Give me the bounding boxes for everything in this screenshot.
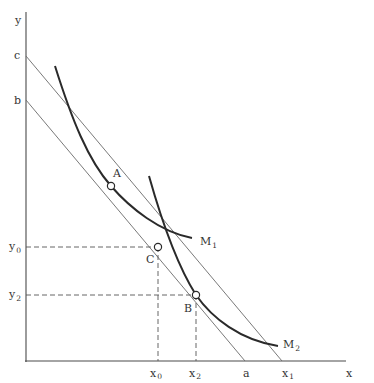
point-A: [107, 182, 114, 189]
curve-M1: [55, 66, 192, 238]
label-b: b: [14, 94, 21, 107]
point-C: [154, 243, 161, 250]
label-c: c: [14, 49, 20, 62]
label-a: a: [243, 367, 250, 380]
label-x0: x0: [150, 367, 162, 381]
x-axis-label: x: [346, 367, 353, 380]
guide-lines: [26, 247, 196, 361]
label-M1: M1: [200, 235, 217, 250]
label-point-C: C: [146, 253, 154, 266]
curve-M2: [149, 176, 278, 346]
label-x1: x1: [282, 367, 294, 381]
label-M2: M2: [283, 338, 300, 353]
label-point-B: B: [184, 302, 192, 315]
indifference-curves: [55, 66, 278, 346]
diagram-canvas: y x c b y0 y2 x0 x2 a x1 A C B M1 M2: [0, 0, 374, 383]
budget-line-b-a: [26, 100, 245, 361]
point-B: [192, 291, 199, 298]
label-y0: y0: [8, 240, 21, 255]
y-axis-label: y: [14, 14, 22, 27]
label-point-A: A: [112, 167, 122, 180]
label-y2: y2: [8, 288, 21, 303]
budget-lines: [26, 56, 282, 361]
points: [107, 182, 199, 298]
budget-line-c-x1: [26, 56, 282, 361]
label-x2: x2: [189, 367, 201, 381]
